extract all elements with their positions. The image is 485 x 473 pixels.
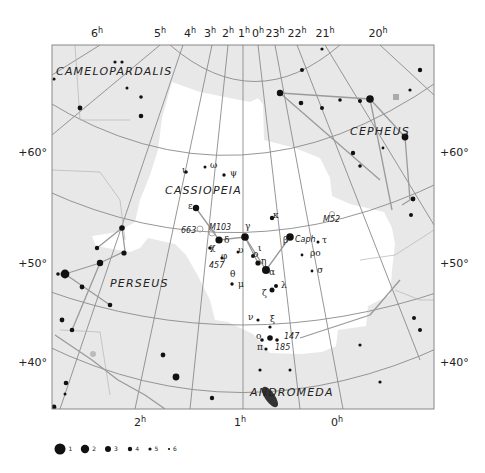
ra-label: 4h — [184, 26, 196, 40]
star-label: λ — [281, 280, 287, 290]
star-label: ο — [256, 331, 261, 341]
star-label: φ — [221, 251, 227, 261]
dec-label: +50° — [440, 257, 469, 270]
ra-labels-bottom: 2h1h0h — [134, 415, 343, 429]
dec-label: +60° — [440, 146, 469, 159]
star-label: γ — [245, 221, 250, 231]
constellation-name-perseus: PERSEUS — [110, 277, 169, 290]
dec-label: +40° — [440, 356, 469, 369]
star-label: ω — [210, 160, 217, 170]
star-label: ρο — [310, 248, 321, 258]
dec-label: +60° — [18, 146, 47, 159]
star-label: ε — [188, 201, 193, 211]
constellation-name-andromeda: ANDROMEDA — [249, 386, 334, 399]
dec-labels-left: +60°+50°+40° — [18, 146, 47, 369]
star-label: χ — [210, 242, 216, 252]
ra-label: 21h — [315, 26, 334, 40]
legend-magnitude-label: 2 — [92, 445, 96, 452]
ra-label: 2h — [134, 415, 146, 429]
star-label: θ — [230, 269, 235, 279]
legend-magnitude-label: 6 — [173, 445, 177, 452]
legend-magnitude-label: 4 — [135, 445, 139, 452]
ra-label: 20h — [368, 26, 387, 40]
legend-magnitude-label: 5 — [155, 445, 159, 452]
star-label: υ — [238, 245, 244, 255]
star-label: ζ — [262, 288, 267, 298]
star-label: ξ — [270, 314, 275, 324]
deep-sky-label: M52 — [323, 215, 340, 224]
star-label: π — [257, 342, 263, 352]
star-label: η — [261, 256, 266, 266]
legend-star-icon — [168, 448, 170, 450]
deep-sky-label: 185 — [275, 343, 290, 352]
star-label: σ — [317, 265, 323, 275]
star-label: ψ — [230, 168, 237, 178]
legend-star-icon — [55, 444, 66, 455]
magnitude-legend: 123456 — [55, 444, 178, 455]
deep-sky-label: 663 — [181, 226, 196, 235]
ra-label: 0h — [252, 26, 264, 40]
star-label: ι — [182, 165, 186, 175]
ra-label: 6h — [91, 26, 103, 40]
legend-star-icon — [81, 445, 89, 453]
star-chart: 6h5h4h3h2h1h0h23h22h21h20h 2h1h0h +60°+5… — [0, 0, 485, 473]
star-label: ι — [258, 243, 262, 253]
legend-magnitude-label: 3 — [114, 445, 118, 452]
ra-label: 2h — [222, 26, 234, 40]
ra-label: 23h — [265, 26, 284, 40]
deep-sky-label: 147 — [284, 332, 300, 341]
constellation-name-cepheus: CEPHEUS — [350, 125, 410, 138]
star-label: α — [269, 267, 275, 277]
legend-star-icon — [148, 447, 151, 450]
ra-labels-top: 6h5h4h3h2h1h0h23h22h21h20h — [91, 26, 388, 40]
legend-magnitude-label: 1 — [69, 445, 73, 452]
ra-label: 0h — [331, 415, 343, 429]
star-label: Caph — [295, 235, 316, 244]
constellation-name-cassiopeia: CASSIOPEIA — [165, 184, 242, 197]
star-label: ν — [248, 312, 253, 322]
ra-label: 5h — [154, 26, 166, 40]
dec-label: +40° — [18, 356, 47, 369]
star-label: τ — [322, 235, 327, 245]
star-label: δ — [224, 235, 229, 245]
star-label: κ — [273, 210, 279, 220]
constellation-name-camelopardalis: CAMELOPARDALIS — [56, 65, 173, 78]
star-label: μ — [238, 279, 244, 289]
ra-label: 22h — [287, 26, 306, 40]
deep-sky-label: 457 — [209, 261, 225, 270]
deep-sky-label: M103 — [209, 223, 231, 232]
legend-star-icon — [105, 446, 111, 452]
ra-label: 1h — [234, 415, 246, 429]
dec-label: +50° — [18, 257, 47, 270]
ra-label: 1h — [238, 26, 250, 40]
legend-star-icon — [128, 447, 132, 451]
star-label: β — [283, 235, 288, 245]
ra-label: 3h — [204, 26, 216, 40]
dec-labels-right: +60°+50°+40° — [440, 146, 469, 369]
